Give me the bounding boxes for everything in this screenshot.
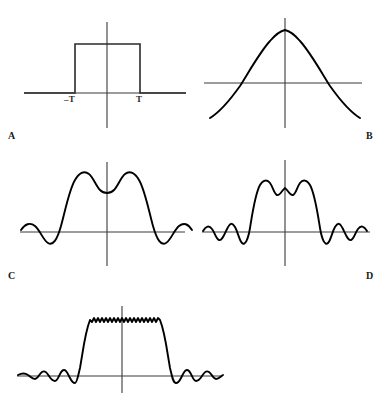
panel-c bbox=[0, 150, 190, 268]
panel-e-partial-sum-curve bbox=[18, 318, 223, 383]
panel-a-tick-left: –T bbox=[64, 94, 75, 104]
panel-a-tick-right: T bbox=[136, 94, 142, 104]
panel-a-pulse-curve bbox=[24, 44, 186, 93]
panel-b bbox=[190, 0, 380, 130]
panel-e-plot bbox=[0, 296, 250, 393]
panel-label-c: C bbox=[8, 270, 15, 281]
panel-a: –T T bbox=[0, 0, 190, 130]
panel-label-d: D bbox=[366, 270, 373, 281]
panel-d-plot bbox=[190, 150, 380, 268]
panel-c-plot bbox=[0, 150, 190, 268]
panel-a-plot bbox=[0, 0, 190, 130]
figure-root: –T T A B C D bbox=[0, 0, 380, 393]
panel-label-b: B bbox=[366, 130, 373, 141]
panel-label-a: A bbox=[8, 130, 15, 141]
panel-b-plot bbox=[190, 0, 380, 130]
panel-d bbox=[190, 150, 380, 268]
panel-e bbox=[0, 296, 250, 393]
